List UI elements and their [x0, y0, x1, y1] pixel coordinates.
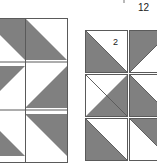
hst-unit-r2-c0[interactable] [85, 118, 128, 161]
hst-unit-r0-c1[interactable] [129, 30, 157, 73]
top-count-label: 12 [138, 3, 149, 13]
pinwheel-block-graphic [0, 18, 68, 163]
tick-mark [123, 0, 125, 3]
pinwheel-quilt-block[interactable] [0, 18, 68, 163]
hst-unit-r1-c0[interactable] [85, 74, 128, 117]
triangle-shade-top-right [130, 119, 157, 160]
triangle-shade-top-left [130, 31, 157, 72]
hst-unit-r1-c1[interactable] [129, 74, 157, 117]
hst-unit-count-label: 2 [113, 38, 118, 47]
quilt-diagram-canvas: 12 2 [0, 0, 157, 163]
hst-unit-r2-c1[interactable] [129, 118, 157, 161]
hst-unit-r0-c0[interactable] [85, 30, 128, 73]
triangle-shade-bottom-left [86, 119, 127, 160]
triangle-shade-bottom-right [86, 75, 127, 116]
triangle-shade-bottom-left [86, 31, 127, 72]
triangle-shade-bottom-left [130, 75, 157, 116]
